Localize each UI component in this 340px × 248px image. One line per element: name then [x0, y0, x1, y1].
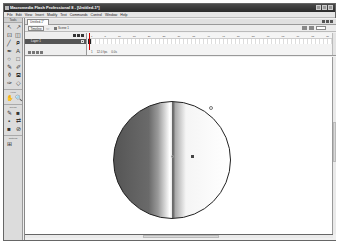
color-tools: ✎ ■ ▪ ⇄ ■ ⊘ — [4, 109, 22, 134]
ruler-tick: 1 — [91, 34, 92, 38]
option-tools: ⊞ — [4, 140, 22, 149]
flash-window: Macromedia Flash Professional 8 - [Untit… — [3, 3, 336, 241]
menu-help[interactable]: Help — [120, 12, 127, 17]
snap-option-icon[interactable]: ⊞ — [5, 141, 13, 148]
timeline-toggle-button[interactable]: Timeline — [28, 26, 44, 31]
edit-symbol-icon[interactable] — [309, 26, 314, 30]
stroke-color-icon[interactable]: ✎ — [5, 110, 13, 117]
horizontal-scroll-thumb[interactable] — [143, 235, 219, 238]
frame-row[interactable] — [88, 39, 332, 44]
menu-commands[interactable]: Commands — [70, 12, 88, 17]
horizontal-scrollbar[interactable] — [25, 234, 333, 238]
window-controls — [316, 5, 333, 10]
doc-minimize-button[interactable] — [322, 20, 325, 23]
default-colors-icon[interactable]: ■ — [5, 126, 13, 133]
frame-rate: 12.0 fps — [97, 50, 108, 55]
frames-area[interactable]: 1 5 10 15 20 25 30 35 40 45 50 55 60 65 … — [88, 33, 332, 55]
flash-app-icon — [5, 6, 9, 10]
maximize-button[interactable] — [322, 5, 327, 10]
gradient-transform-tool-icon[interactable]: ◫ — [14, 32, 22, 39]
lock-icon[interactable] — [77, 34, 80, 37]
current-frame: 1 — [91, 50, 93, 55]
minimize-button[interactable] — [316, 5, 321, 10]
delete-layer-icon[interactable] — [40, 51, 43, 54]
title-bar: Macromedia Flash Professional 8 - [Untit… — [4, 4, 335, 12]
paint-bucket-tool-icon[interactable]: ⛾ — [14, 72, 22, 79]
document-controls — [322, 20, 333, 23]
menu-modify[interactable]: Modify — [47, 12, 57, 17]
subselect-tool-icon[interactable]: ↗ — [14, 24, 22, 31]
oval-tool-icon[interactable]: ○ — [5, 56, 13, 63]
gradient-circle-shape[interactable] — [113, 101, 231, 219]
no-color-icon[interactable]: ⊘ — [14, 126, 22, 133]
menu-edit[interactable]: Edit — [16, 12, 22, 17]
vertical-scrollbar[interactable] — [332, 57, 336, 234]
rectangle-tool-icon[interactable]: □ — [14, 56, 22, 63]
line-tool-icon[interactable]: ╱ — [5, 40, 13, 47]
ruler-tick: 15 — [133, 34, 136, 38]
arrow-tool-icon[interactable]: ↖ — [5, 24, 13, 31]
ink-bottle-tool-icon[interactable]: ⚱ — [5, 72, 13, 79]
stroke-swatch[interactable]: ■ — [14, 110, 22, 117]
ruler-tick: 50 — [237, 34, 240, 38]
eye-icon[interactable] — [73, 34, 76, 37]
document-area: Untitled-1* Timeline ⇦ Scene 1 — [24, 18, 336, 240]
vertical-scroll-thumb[interactable] — [333, 122, 336, 162]
ruler-tick: 45 — [222, 34, 225, 38]
window-title: Macromedia Flash Professional 8 - [Untit… — [10, 5, 100, 10]
outline-icon[interactable] — [81, 34, 84, 37]
ruler-tick: 60 — [267, 34, 270, 38]
pen-tool-icon[interactable]: ✒ — [5, 48, 13, 55]
text-tool-icon[interactable]: A — [14, 48, 22, 55]
menu-text[interactable]: Text — [60, 12, 66, 17]
lasso-tool-icon[interactable]: ᑭ — [14, 40, 22, 47]
hand-tool-icon[interactable]: ✋ — [5, 95, 13, 102]
layer-row[interactable]: Layer 1 — [25, 39, 86, 44]
layer-buttons — [25, 50, 86, 55]
ruler-tick: 25 — [163, 34, 166, 38]
fill-color-icon[interactable]: ▪ — [5, 118, 13, 125]
ruler-tick: 40 — [207, 34, 210, 38]
gradient-width-handle[interactable] — [191, 155, 194, 158]
menu-file[interactable]: File — [7, 12, 13, 17]
tools-grid: ↖ ↗ ⊡ ◫ ╱ ᑭ ✒ A ○ □ ✎ ✐ ⚱ ⛾ ✑ ◇ — [4, 23, 22, 88]
ruler-tick: 75 — [311, 34, 314, 38]
playhead[interactable] — [89, 33, 90, 50]
layer-name: Layer 1 — [31, 39, 41, 43]
edit-bar: Timeline ⇦ Scene 1 — [25, 25, 336, 32]
back-arrow-icon[interactable]: ⇦ — [46, 26, 51, 31]
close-button[interactable] — [328, 5, 333, 10]
timeline-scrollbar[interactable] — [332, 33, 336, 55]
pencil-tool-icon[interactable]: ✎ — [5, 64, 13, 71]
eyedropper-tool-icon[interactable]: ✑ — [5, 80, 13, 87]
gradient-center-point[interactable] — [171, 155, 174, 158]
tools-panel: Tools ↖ ↗ ⊡ ◫ ╱ ᑭ ✒ A ○ □ ✎ ✐ ⚱ ⛾ ✑ ◇ Vi… — [4, 18, 23, 240]
swap-colors-icon[interactable]: ⇄ — [14, 118, 22, 125]
zoom-tool-icon[interactable]: 🔍 — [14, 95, 22, 102]
insert-layer-icon[interactable] — [28, 51, 31, 54]
add-guide-layer-icon[interactable] — [32, 51, 35, 54]
menu-view[interactable]: View — [25, 12, 33, 17]
ruler-tick: 65 — [282, 34, 285, 38]
timeline-panel: Layer 1 1 5 10 15 20 25 3 — [25, 33, 336, 56]
brush-tool-icon[interactable]: ✐ — [14, 64, 22, 71]
ruler-tick: 55 — [252, 34, 255, 38]
doc-close-button[interactable] — [330, 20, 333, 23]
eraser-tool-icon[interactable]: ◇ — [14, 80, 22, 87]
layer-header-icons — [73, 34, 84, 37]
menu-window[interactable]: Window — [105, 12, 117, 17]
elapsed-time: 0.0s — [111, 50, 117, 55]
menu-control[interactable]: Control — [91, 12, 102, 17]
edit-scene-icon[interactable] — [302, 26, 307, 30]
gradient-rotate-handle[interactable] — [209, 106, 213, 110]
scene-breadcrumb[interactable]: Scene 1 — [54, 26, 69, 31]
layer-outline-box[interactable] — [81, 40, 84, 43]
doc-restore-button[interactable] — [326, 20, 329, 23]
insert-folder-icon[interactable] — [36, 51, 39, 54]
zoom-select[interactable] — [316, 26, 326, 30]
ruler-tick: 70 — [296, 34, 299, 38]
layer-list: Layer 1 — [25, 33, 87, 55]
free-transform-tool-icon[interactable]: ⊡ — [5, 32, 13, 39]
stage[interactable] — [25, 57, 333, 234]
menu-insert[interactable]: Insert — [35, 12, 44, 17]
